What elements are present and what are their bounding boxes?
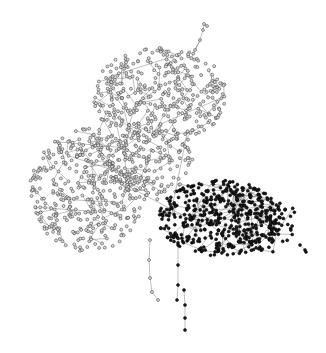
network-graph (0, 0, 326, 353)
graph-nodes (29, 23, 307, 332)
graph-edges (33, 24, 306, 330)
